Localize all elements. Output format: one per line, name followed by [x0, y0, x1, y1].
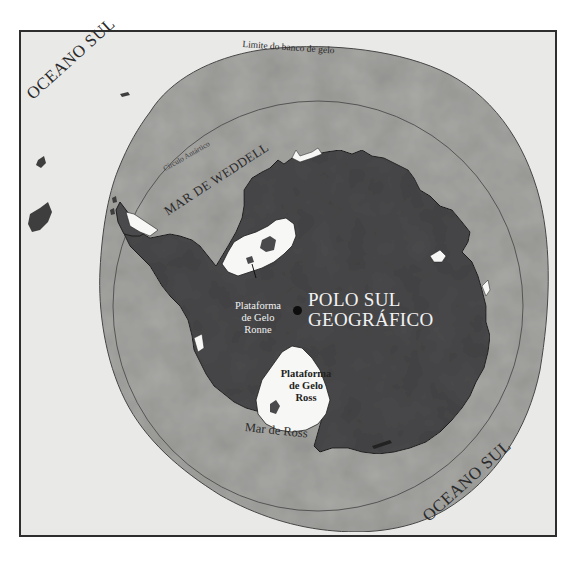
ross-shelf-label-line3: Ross: [276, 392, 336, 404]
ronne-ice-shelf-label: Plataforma de Gelo Ronne: [223, 300, 293, 336]
south-pole-marker: [293, 306, 302, 315]
ross-shelf-label-line2: de Gelo: [276, 380, 336, 392]
ross-shelf-label-line1: Plataforma: [276, 368, 336, 380]
ronne-label-line1: Plataforma: [223, 300, 293, 312]
ross-ice-shelf-label: Plataforma de Gelo Ross: [276, 368, 336, 404]
south-pole-label: POLO SUL GEOGRÁFICO: [308, 290, 433, 330]
south-orkney-island: [36, 156, 46, 168]
antarctica-map: [0, 0, 575, 565]
south-pole-label-line2: GEOGRÁFICO: [308, 310, 433, 330]
south-georgia-island: [120, 92, 130, 97]
tierra-del-fuego: [28, 202, 52, 232]
south-pole-label-line1: POLO SUL: [308, 290, 433, 310]
ronne-label-line2: de Gelo: [223, 312, 293, 324]
ronne-label-line3: Ronne: [223, 324, 293, 336]
